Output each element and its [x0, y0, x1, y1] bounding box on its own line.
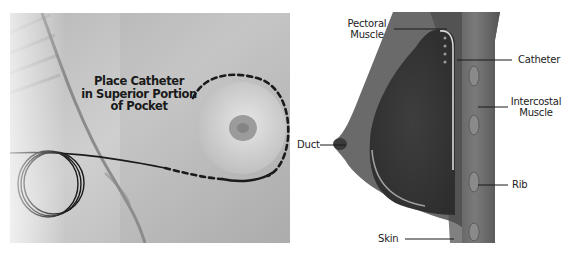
catheter-placement-caption: Place Catheter in Superior Portion of Po…: [68, 75, 210, 113]
label-duct: Duct: [297, 139, 320, 150]
anatomy-illustration: [290, 0, 561, 256]
caption-line-1: Place Catheter: [68, 75, 210, 88]
caption-line-3: of Pocket: [68, 100, 210, 113]
label-skin: Skin: [378, 233, 398, 244]
label-intercostal-muscle: Intercostal Muscle: [508, 96, 564, 118]
nipple-duct: [333, 138, 347, 150]
breast-anatomy-diagram: Pectoral Muscle Catheter Intercostal Mus…: [290, 0, 561, 256]
label-pectoral-muscle: Pectoral Muscle: [342, 18, 392, 40]
label-rib: Rib: [512, 179, 527, 190]
photo-illustration: [10, 13, 290, 243]
catheter-placement-photo: Place Catheter in Superior Portion of Po…: [10, 13, 290, 243]
label-catheter: Catheter: [518, 54, 560, 65]
